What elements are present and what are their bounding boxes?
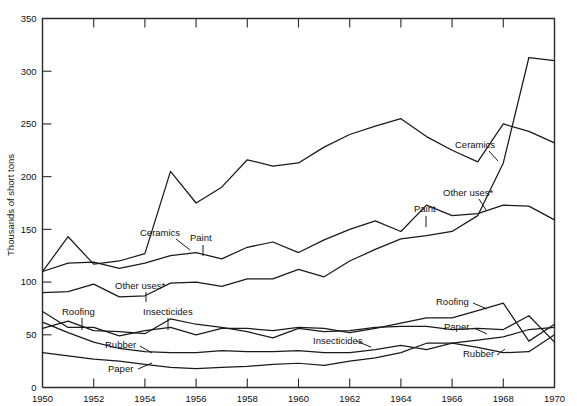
x-tick-label: 1968: [493, 393, 514, 404]
y-tick-label: 350: [21, 13, 37, 24]
x-tick-label: 1954: [134, 393, 155, 404]
x-tick-label: 1960: [288, 393, 309, 404]
series-label: Ceramics: [140, 227, 180, 238]
x-tick-label: 1956: [186, 393, 207, 404]
y-axis-ticks: 050100150200250300350: [21, 13, 52, 393]
series-label: Paint: [414, 203, 436, 214]
y-tick-label: 150: [21, 224, 37, 235]
x-tick-label: 1950: [32, 393, 53, 404]
y-tick-label: 50: [26, 329, 37, 340]
label-leader-line: [473, 303, 487, 309]
series-line-roofing: [43, 303, 555, 341]
series-label: Paper: [444, 321, 469, 332]
series-label: Paint: [190, 232, 212, 243]
series-label: Roofing: [62, 306, 95, 317]
y-tick-label: 300: [21, 66, 37, 77]
label-leader-line: [489, 151, 498, 161]
series-label: Other uses*: [115, 280, 165, 291]
x-tick-label: 1962: [339, 393, 360, 404]
x-tick-label: 1952: [83, 393, 104, 404]
series-annotations: CeramicsPaintOther uses*CeramicsOther us…: [62, 139, 505, 374]
x-tick-label: 1966: [442, 393, 463, 404]
x-tick-label: 1958: [237, 393, 258, 404]
chart-container: 050100150200250300350 195019521954195619…: [0, 0, 577, 406]
series-label: Ceramics: [455, 139, 495, 150]
label-leader-line: [176, 239, 190, 250]
series-label: Other uses*: [443, 187, 493, 198]
x-tick-label: 1970: [544, 393, 565, 404]
series-label: Roofing: [436, 296, 469, 307]
y-axis-label: Thousands of short tons: [5, 154, 16, 256]
y-tick-label: 250: [21, 118, 37, 129]
series-label: Insecticides: [143, 306, 193, 317]
line-chart: 050100150200250300350 195019521954195619…: [0, 0, 577, 406]
y-tick-label: 200: [21, 171, 37, 182]
series-label: Rubber: [105, 339, 136, 350]
x-tick-label: 1964: [390, 393, 411, 404]
data-series-group: [43, 58, 555, 369]
series-label: Rubber: [463, 348, 494, 359]
series-label: Insecticides: [313, 335, 363, 346]
series-label: Paper: [108, 363, 133, 374]
y-tick-label: 0: [31, 382, 36, 393]
y-tick-label: 100: [21, 276, 37, 287]
